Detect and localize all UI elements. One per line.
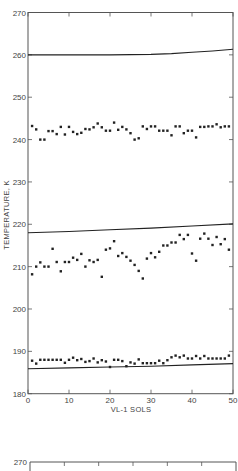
upper-points [150, 125, 152, 127]
middle-points [133, 264, 135, 266]
upper-points [174, 125, 176, 127]
middle-points [121, 252, 123, 254]
upper-points [97, 122, 99, 124]
upper-points [56, 133, 58, 135]
x-axis-ticks: 01020304050 [26, 13, 238, 405]
lower-points [174, 354, 176, 356]
middle-points [76, 259, 78, 261]
middle-points [68, 261, 70, 263]
upper-points [138, 137, 140, 139]
middle-points [60, 270, 62, 272]
middle-points [187, 234, 189, 236]
middle-points [142, 277, 144, 279]
upper-points [84, 128, 86, 130]
lower-points [166, 359, 168, 361]
y-axis-title: TEMPERATURE, K [2, 180, 11, 249]
middle-points [113, 240, 115, 242]
lower-points [179, 356, 181, 358]
middle-points [224, 238, 226, 240]
middle-points [51, 248, 53, 250]
second-chart-y-top-label: 270 [14, 458, 28, 467]
y-tick-label: 200 [13, 305, 27, 314]
lower-points [117, 359, 119, 361]
lower-points [121, 360, 123, 362]
upper-points [47, 130, 49, 132]
middle-points [207, 238, 209, 240]
x-tick-label: 30 [147, 396, 156, 405]
y-tick-label: 180 [13, 390, 27, 399]
lower-points [220, 357, 222, 359]
x-tick-label: 20 [106, 396, 115, 405]
upper-points [207, 125, 209, 127]
lower-points [215, 357, 217, 359]
lower-points [162, 362, 164, 364]
x-tick-label: 40 [188, 396, 197, 405]
lower-points [154, 362, 156, 364]
middle-points [109, 247, 111, 249]
middle-points [191, 252, 193, 254]
y-tick-label: 190 [13, 347, 27, 356]
upper-points [203, 126, 205, 128]
lower-points [203, 355, 205, 357]
middle-points [228, 249, 230, 251]
lower-points [129, 361, 131, 363]
plot-frame [28, 13, 233, 394]
upper-points [68, 126, 70, 128]
middle-points [179, 234, 181, 236]
upper-points [39, 138, 41, 140]
lower-points [142, 362, 144, 364]
lower-points [150, 362, 152, 364]
middle-points [47, 265, 49, 267]
upper-points [170, 134, 172, 136]
y-axis-ticks: 180190200210220230240250260270 [13, 9, 233, 399]
y-tick-label: 220 [13, 220, 27, 229]
lower-points [224, 357, 226, 359]
middle-points [92, 261, 94, 263]
upper-points [133, 138, 135, 140]
y-tick-label: 270 [13, 9, 27, 18]
middle-points [80, 253, 82, 255]
lower-points [39, 359, 41, 361]
upper-points [146, 128, 148, 130]
y-tick-label: 260 [13, 51, 27, 60]
middle-points [203, 232, 205, 234]
middle-points [35, 265, 37, 267]
lower-points [101, 359, 103, 361]
middle-points [170, 241, 172, 243]
middle-points [199, 238, 201, 240]
middle-curve [28, 224, 233, 233]
upper-points [191, 130, 193, 132]
middle-points [211, 244, 213, 246]
middle-points [88, 259, 90, 261]
lower-points [35, 362, 37, 364]
upper-points [162, 130, 164, 132]
middle-points [84, 265, 86, 267]
middle-points [150, 252, 152, 254]
lower-points [72, 357, 74, 359]
middle-points [215, 236, 217, 238]
temperature-chart: 180190200210220230240250260270 010203040… [0, 0, 238, 471]
upper-points [105, 130, 107, 132]
upper-points [80, 132, 82, 134]
middle-points [154, 256, 156, 258]
x-tick-label: 50 [229, 396, 238, 405]
upper-points [187, 130, 189, 132]
middle-points [43, 265, 45, 267]
lower-points [133, 362, 135, 364]
middle-points [174, 241, 176, 243]
lower-points [146, 362, 148, 364]
middle-points [220, 243, 222, 245]
lower-points [228, 354, 230, 356]
lower-points [191, 357, 193, 359]
lower-points [84, 361, 86, 363]
middle-points [101, 276, 103, 278]
y-tick-label: 210 [13, 263, 27, 272]
upper-points [166, 130, 168, 132]
middle-points [125, 256, 127, 258]
upper-points [101, 126, 103, 128]
middle-points [64, 261, 66, 263]
upper-points [129, 132, 131, 134]
upper-points [228, 125, 230, 127]
x-axis-title: VL-1 SOLS [111, 405, 152, 414]
upper-points [211, 125, 213, 127]
